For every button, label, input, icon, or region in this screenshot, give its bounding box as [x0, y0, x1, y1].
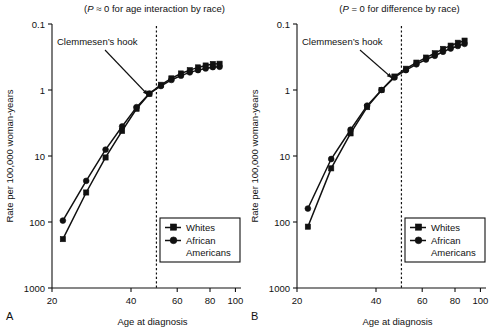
panel-b: (P = 0 for difference by race)1000100101…: [249, 3, 488, 327]
data-point-marker-square: [60, 237, 65, 242]
y-axis-title: Rate per 100,000 woman-years: [249, 89, 260, 222]
legend-square-marker: [170, 224, 176, 230]
data-point-marker-circle: [403, 67, 409, 73]
data-point-marker-circle: [158, 83, 164, 89]
legend-circle-marker: [170, 237, 177, 244]
data-point-marker-circle: [413, 61, 419, 67]
data-point-marker-circle: [119, 124, 125, 130]
data-point-marker-circle: [305, 206, 311, 212]
y-tick-label: 1000: [24, 283, 45, 294]
data-point-marker-square: [84, 190, 89, 195]
data-point-marker-circle: [187, 69, 193, 75]
y-tick-label: 0.1: [277, 19, 290, 30]
data-point-marker-circle: [432, 53, 438, 59]
x-tick-label: 20: [292, 295, 303, 306]
clemmesen-hook-annotation: Clemmesen’s hook: [302, 36, 383, 47]
legend-label-2: African: [186, 235, 216, 246]
y-tick-label: 10: [279, 151, 290, 162]
data-point-marker-circle: [364, 103, 370, 109]
series-line-whites: [308, 41, 465, 227]
y-tick-label: 100: [29, 217, 45, 228]
panel-title-text: (P = 0 for difference by race): [339, 3, 460, 14]
annotation-arrow-shaft: [360, 50, 392, 78]
x-tick-label: 80: [450, 295, 461, 306]
legend-label-2: African: [431, 235, 461, 246]
panel-title-text: (P ≈ 0 for age interaction by race): [84, 3, 225, 14]
figure-container: (P ≈ 0 for age interaction by race)10001…: [0, 0, 496, 329]
panel-title-a: (P ≈ 0 for age interaction by race): [84, 3, 225, 14]
chart-svg: (P ≈ 0 for age interaction by race)10001…: [0, 0, 496, 329]
data-point-marker-circle: [134, 104, 140, 110]
y-tick-label: 0.1: [32, 19, 45, 30]
data-point-marker-square: [305, 224, 310, 229]
series-line-whites: [63, 64, 220, 239]
data-point-marker-circle: [455, 43, 461, 49]
annotation-arrow-shaft: [105, 50, 148, 95]
data-point-marker-circle: [391, 75, 397, 81]
x-tick-label: 60: [172, 295, 183, 306]
data-point-marker-circle: [462, 41, 468, 47]
data-point-marker-circle: [146, 91, 152, 97]
panel-letter-a: A: [6, 310, 14, 322]
legend-label-1: Whites: [186, 222, 215, 233]
series-line-african-americans: [308, 44, 465, 209]
legend-label-2-line2: Americans: [186, 247, 231, 258]
x-tick-label: 80: [205, 295, 216, 306]
y-axis-title: Rate per 100,000 woman-years: [4, 89, 15, 222]
legend-circle-marker: [415, 237, 422, 244]
x-axis-title: Age at diagnosis: [362, 316, 432, 327]
data-point-marker-circle: [328, 156, 334, 162]
panel-title-b: (P = 0 for difference by race): [339, 3, 460, 14]
x-tick-label: 60: [417, 295, 428, 306]
data-point-marker-circle: [348, 127, 354, 133]
clemmesen-hook-annotation: Clemmesen’s hook: [57, 36, 138, 47]
data-point-marker-circle: [60, 218, 66, 224]
data-point-marker-circle: [83, 178, 89, 184]
legend-label-2-line2: Americans: [431, 247, 476, 258]
y-tick-label: 100: [274, 217, 290, 228]
data-point-marker-circle: [423, 57, 429, 63]
x-tick-label: 20: [47, 295, 58, 306]
y-tick-label: 1: [285, 85, 290, 96]
data-point-marker-circle: [210, 64, 216, 70]
data-point-marker-circle: [168, 77, 174, 83]
y-tick-label: 1: [40, 85, 45, 96]
panel-a: (P ≈ 0 for age interaction by race)10001…: [4, 3, 243, 327]
data-point-marker-circle: [448, 46, 454, 52]
y-tick-label: 10: [34, 151, 45, 162]
data-point-marker-circle: [203, 66, 209, 72]
data-point-marker-circle: [103, 147, 109, 153]
legend-square-marker: [415, 224, 421, 230]
x-tick-label: 40: [126, 295, 137, 306]
x-tick-label: 100: [473, 295, 489, 306]
legend: WhitesAfricanAmericans: [405, 218, 485, 262]
data-point-marker-circle: [217, 64, 223, 70]
legend-label-1: Whites: [431, 222, 460, 233]
data-point-marker-square: [103, 155, 108, 160]
x-tick-label: 40: [371, 295, 382, 306]
data-point-marker-circle: [379, 87, 385, 93]
legend: WhitesAfricanAmericans: [160, 218, 240, 262]
data-point-marker-square: [329, 166, 334, 171]
data-point-marker-circle: [178, 73, 184, 79]
series-line-african-americans: [63, 67, 220, 221]
x-axis-title: Age at diagnosis: [117, 316, 187, 327]
data-point-marker-circle: [195, 67, 201, 73]
x-tick-label: 100: [228, 295, 244, 306]
panel-title-rest: ≈ 0 for age interaction by race): [94, 3, 225, 14]
panel-letter-b: B: [251, 310, 258, 322]
panel-title-rest: = 0 for difference by race): [349, 3, 460, 14]
y-tick-label: 1000: [269, 283, 290, 294]
data-point-marker-circle: [440, 49, 446, 55]
